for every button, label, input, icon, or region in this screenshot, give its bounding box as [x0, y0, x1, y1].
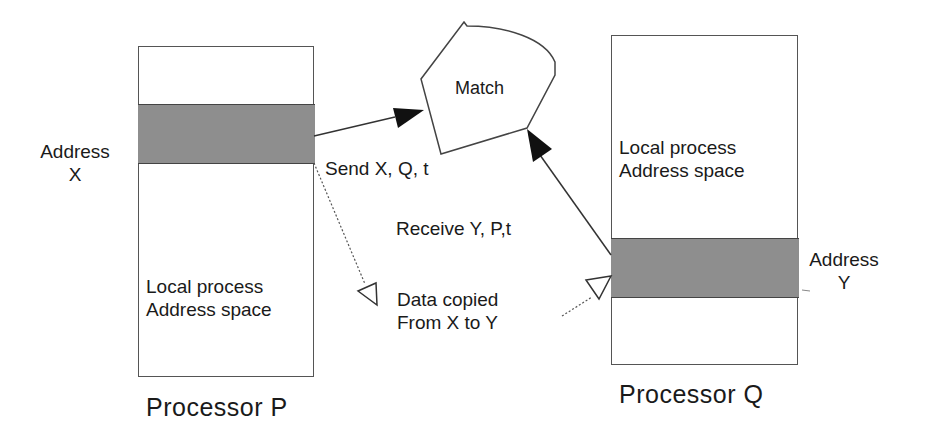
processor-p-space-label: Local process Address space [146, 275, 272, 321]
address-y-label: Address Y [804, 248, 884, 294]
processor-q-space-label: Local process Address space [619, 136, 745, 182]
processor-q-caption: Processor Q [619, 383, 763, 406]
address-x-label: Address X [30, 140, 120, 186]
processor-p-space-line2: Address space [146, 298, 272, 321]
address-y-line2: Y [804, 271, 884, 294]
send-arrow-line [314, 117, 395, 136]
copy-arrowhead-p-icon [358, 283, 377, 305]
address-y-line1: Address [804, 248, 884, 271]
match-label: Match [455, 77, 504, 100]
send-arrowhead-icon [393, 108, 424, 128]
receive-arrow-line [540, 155, 611, 255]
processor-p-caption: Processor P [146, 396, 288, 419]
copy-label: Data copied From X to Y [397, 288, 498, 334]
copy-label-line2: From X to Y [397, 311, 498, 334]
processor-q-space-line1: Local process [619, 136, 745, 159]
copy-dotted-line-q [562, 297, 592, 316]
receive-label: Receive Y, P,t [396, 217, 511, 240]
processor-q-space-line2: Address space [619, 159, 745, 182]
receive-arrowhead-icon [527, 129, 552, 162]
copy-dotted-line-p [314, 163, 365, 284]
address-x-line2: X [30, 163, 120, 186]
send-label: Send X, Q, t [325, 157, 429, 180]
copy-arrowhead-q-icon [586, 276, 611, 299]
processor-p-space-line1: Local process [146, 275, 272, 298]
copy-label-line1: Data copied [397, 288, 498, 311]
address-x-line1: Address [30, 140, 120, 163]
